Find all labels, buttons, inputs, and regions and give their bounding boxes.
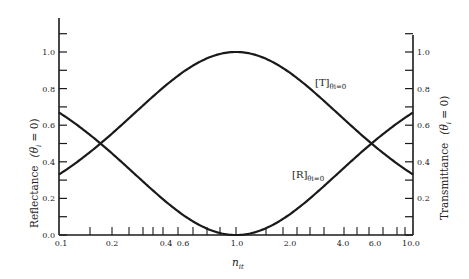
x-tick-label: 0.6 <box>177 239 190 248</box>
x-tick-label: 2.0 <box>284 239 297 248</box>
x-tick-label: 0.1 <box>55 239 68 248</box>
transmittance-curve-label: [T]θi=0 <box>315 77 346 91</box>
left-y-axis-title: Reflectance(θi = 0) <box>28 119 43 228</box>
left-y-tick-label: 1.0 <box>42 48 55 57</box>
x-tick-label: 4.0 <box>337 239 350 248</box>
right-y-tick-label: 0.8 <box>417 85 430 94</box>
chart-canvas: 0.00.20.40.60.81.00.20.40.60.81.00.10.20… <box>0 0 469 279</box>
x-tick-label: 1.0 <box>231 239 244 248</box>
x-tick-label: 10.0 <box>402 239 420 248</box>
right-y-tick-label: 0.4 <box>417 158 430 167</box>
right-y-tick-label: 1.0 <box>417 48 430 57</box>
x-axis-title: nit <box>232 256 244 271</box>
left-y-tick-label: 0.4 <box>42 158 55 167</box>
curves <box>59 52 413 235</box>
x-tick-label: 0.2 <box>106 239 119 248</box>
left-y-tick-label: 0.0 <box>42 231 55 240</box>
transmittance-curve <box>59 52 413 175</box>
right-y-axis-title: Transmittance(θi = 0) <box>438 96 453 220</box>
left-y-tick-label: 0.6 <box>42 121 55 130</box>
reflectance-curve <box>59 113 413 236</box>
x-tick-label: 6.0 <box>369 239 382 248</box>
left-y-tick-label: 0.8 <box>42 85 55 94</box>
left-y-tick-label: 0.2 <box>42 194 55 203</box>
x-tick-label: 0.4 <box>160 239 173 248</box>
reflectance-curve-label: [R]θi=0 <box>292 169 324 183</box>
right-y-tick-label: 0.6 <box>417 121 430 130</box>
right-y-tick-label: 0.2 <box>417 194 430 203</box>
